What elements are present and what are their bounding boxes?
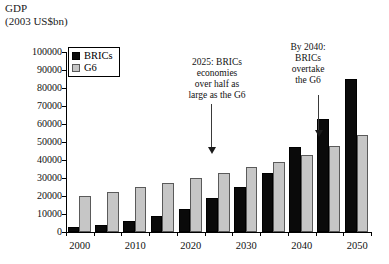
legend-label-g6: G6 xyxy=(84,62,97,74)
x-axis-tick xyxy=(232,232,233,236)
x-axis-tick-label: 2010 xyxy=(125,240,146,251)
bar-g6-2020 xyxy=(190,178,202,232)
x-axis-tick-label: 2020 xyxy=(180,240,201,251)
legend-swatch-g6-icon xyxy=(72,64,80,72)
bar-group xyxy=(94,52,122,232)
x-axis-tick xyxy=(316,232,317,236)
bar-g6-2000 xyxy=(79,196,91,232)
bar-g6-2005 xyxy=(107,192,119,232)
bar-brics-2040 xyxy=(289,147,301,232)
legend-label-brics: BRICs xyxy=(84,50,113,62)
y-axis-tick-label: 20000 xyxy=(37,191,62,201)
y-axis-labels: 0100002000030000400005000060000700008000… xyxy=(0,52,62,232)
x-axis-tick-label: 2030 xyxy=(236,240,257,251)
x-axis-tick xyxy=(94,232,95,236)
x-axis-tick-label: 2040 xyxy=(291,240,312,251)
x-axis-tick xyxy=(343,232,344,236)
bar-brics-2035 xyxy=(262,173,274,232)
bar-g6-2030 xyxy=(246,167,258,232)
y-axis-tick-label: 70000 xyxy=(37,101,62,111)
x-axis-tick xyxy=(371,232,372,236)
bar-g6-2025 xyxy=(218,173,230,232)
y-axis-tick-label: 80000 xyxy=(37,83,62,93)
x-axis-tick xyxy=(121,232,122,236)
y-axis-tick-label: 90000 xyxy=(37,65,62,75)
x-axis-tick xyxy=(149,232,150,236)
x-axis-tick-label: 2000 xyxy=(69,240,90,251)
bar-brics-2015 xyxy=(151,216,163,232)
bar-g6-2015 xyxy=(162,183,174,232)
chart-title-line1: GDP xyxy=(5,2,27,14)
x-axis-tick xyxy=(177,232,178,236)
bar-brics-2000 xyxy=(68,227,80,232)
annotation-2025: 2025: BRICs economies over half as large… xyxy=(163,57,271,101)
bar-group xyxy=(121,52,149,232)
legend-item-g6: G6 xyxy=(72,62,113,74)
legend-swatch-brics-icon xyxy=(72,52,80,60)
bar-brics-2030 xyxy=(234,187,246,232)
y-axis-tick-label: 60000 xyxy=(37,119,62,129)
x-axis-tick-label: 2050 xyxy=(347,240,368,251)
x-axis-tick xyxy=(288,232,289,236)
y-axis-tick-label: 50000 xyxy=(37,137,62,147)
bric-gdp-chart: GDP (2003 US$bn) 01000020000300004000050… xyxy=(0,0,389,264)
x-axis-tick xyxy=(66,232,67,236)
bar-g6-2050 xyxy=(357,135,369,232)
y-axis-tick-label: 100000 xyxy=(32,47,62,57)
y-axis-tick-label: 30000 xyxy=(37,173,62,183)
legend-item-brics: BRICs xyxy=(72,50,113,62)
x-axis-tick xyxy=(205,232,206,236)
bar-brics-2020 xyxy=(179,209,191,232)
bar-group xyxy=(343,52,371,232)
x-axis-line xyxy=(66,232,371,233)
annotation-2040: By 2040: BRICs overtake the G6 xyxy=(272,42,344,86)
bar-g6-2040 xyxy=(301,155,313,232)
y-axis-tick-label: 40000 xyxy=(37,155,62,165)
bar-brics-2010 xyxy=(123,221,135,232)
bar-brics-2025 xyxy=(206,198,218,232)
chart-title-line2: (2003 US$bn) xyxy=(5,15,68,27)
y-axis-tick-label: 10000 xyxy=(37,209,62,219)
bar-g6-2045 xyxy=(329,146,341,232)
chart-legend: BRICs G6 xyxy=(68,47,120,77)
bar-g6-2010 xyxy=(135,187,147,232)
bar-group xyxy=(66,52,94,232)
x-axis-tick xyxy=(260,232,261,236)
bar-g6-2035 xyxy=(273,162,285,232)
bar-brics-2050 xyxy=(345,79,357,232)
bar-brics-2005 xyxy=(95,225,107,232)
